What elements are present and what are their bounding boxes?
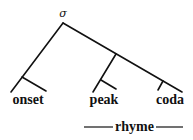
- sigma-label: σ: [59, 7, 67, 20]
- syllable-tree-diagram: σ onset peak coda rhyme: [0, 0, 193, 140]
- coda-branch: [158, 81, 163, 90]
- onset-branch: [22, 77, 46, 91]
- coda-label: coda: [156, 92, 184, 107]
- rhyme-label: rhyme: [115, 119, 154, 134]
- peak-branch: [101, 80, 116, 89]
- root-left-branch: [11, 23, 63, 92]
- peak-label: peak: [90, 92, 119, 107]
- onset-label: onset: [12, 92, 43, 107]
- root-right-branch: [63, 23, 182, 92]
